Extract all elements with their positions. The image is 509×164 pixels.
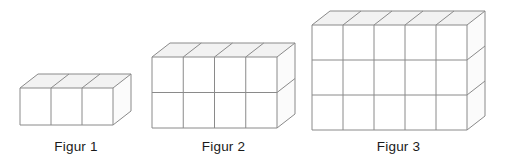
top-face: [312, 11, 485, 25]
figure-sequence-illustration: Figur 1 Figur 2 Figur 3: [0, 0, 509, 164]
right-face: [467, 11, 485, 130]
figure-3-label: Figur 3: [312, 139, 485, 154]
figure-1-label: Figur 1: [20, 139, 132, 154]
figure-1: [20, 74, 131, 125]
figure-3: [312, 11, 485, 130]
figure-2: [152, 43, 295, 128]
front-face: [20, 88, 113, 125]
top-face: [20, 74, 131, 88]
figure-2-label: Figur 2: [152, 139, 295, 154]
front-face: [312, 25, 467, 130]
